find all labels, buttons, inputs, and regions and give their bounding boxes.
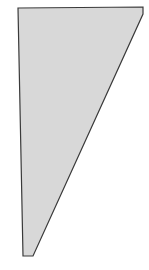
diagram-canvas — [0, 0, 149, 270]
tapered-shape — [18, 7, 143, 256]
